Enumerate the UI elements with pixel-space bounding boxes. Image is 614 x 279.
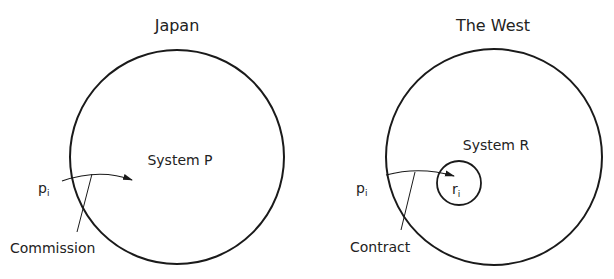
system-label: System P — [147, 152, 212, 168]
flow-arrow — [386, 171, 454, 176]
system-boundary-circle — [386, 49, 602, 265]
boundary-label: Contract — [350, 239, 411, 255]
leader-line — [77, 174, 92, 232]
inner-label: ri — [452, 181, 460, 199]
boundary-label: Commission — [10, 240, 95, 256]
panel-title: The West — [455, 16, 530, 35]
system-label: System R — [463, 137, 530, 153]
panel-title: Japan — [154, 16, 200, 35]
panel-the-west: The West System R ri pi Contract — [350, 16, 602, 265]
input-label: pi — [356, 180, 367, 198]
diagram-canvas: Japan System P pi Commission The West Sy… — [0, 0, 614, 279]
input-label: pi — [38, 180, 49, 198]
panel-japan: Japan System P pi Commission — [10, 16, 284, 264]
